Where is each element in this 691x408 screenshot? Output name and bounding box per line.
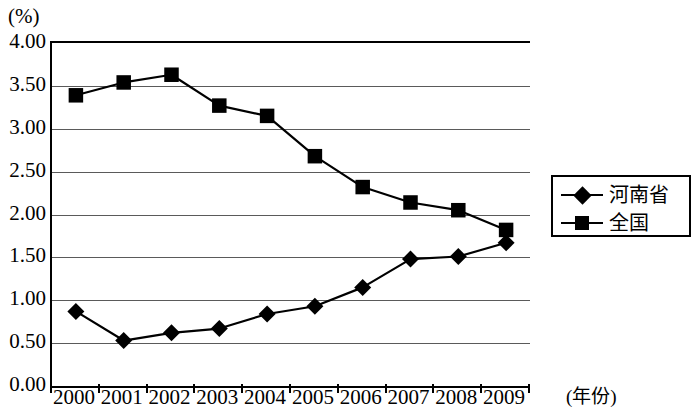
- diamond-data-point-marker: [259, 305, 276, 322]
- x-axis-tick-label: 2008: [435, 386, 477, 408]
- x-axis-tick-label: 2002: [149, 386, 191, 408]
- square-data-point-marker: [355, 180, 370, 195]
- y-axis-tick-label: 1.00: [0, 288, 46, 309]
- square-data-point-marker: [308, 149, 323, 164]
- y-axis-tick-label: 0.50: [0, 331, 46, 352]
- x-axis-tick-label: 2004: [244, 386, 286, 408]
- diamond-data-point-marker: [354, 279, 371, 296]
- legend-item-henan[interactable]: 河南省: [553, 181, 689, 209]
- diamond-data-point-marker: [163, 324, 180, 341]
- square-data-point-marker: [260, 109, 275, 124]
- x-axis-tick-label: 2005: [292, 386, 334, 408]
- series-layer: [52, 43, 530, 386]
- x-axis-tick-label: 2006: [340, 386, 382, 408]
- legend-item-national[interactable]: 全国: [553, 209, 689, 237]
- y-axis-tick-label: 1.50: [0, 245, 46, 266]
- diamond-data-point-marker: [67, 303, 84, 320]
- series-line: [76, 75, 506, 230]
- x-axis-title: (年份): [566, 386, 617, 408]
- legend-label-national: 全国: [603, 212, 649, 234]
- x-axis-tick: [528, 384, 530, 393]
- x-axis-tick-label: 2007: [388, 386, 430, 408]
- x-axis-tick-label: 2000: [53, 386, 95, 408]
- y-axis-tick-labels: 4.003.503.002.502.001.501.000.500.00: [0, 0, 46, 408]
- legend-key-diamond: [561, 185, 603, 205]
- series-line: [76, 243, 506, 341]
- diamond-marker-icon: [573, 186, 591, 204]
- legend-key-square: [561, 213, 603, 233]
- square-data-point-marker: [499, 223, 513, 238]
- square-marker-icon: [575, 216, 589, 230]
- square-data-point-marker: [164, 67, 179, 82]
- square-data-point-marker: [116, 75, 131, 90]
- y-axis-tick-label: 2.50: [0, 160, 46, 181]
- diamond-data-point-marker: [211, 320, 228, 337]
- y-axis-tick-label: 3.50: [0, 74, 46, 95]
- x-axis-tick-label: 2009: [483, 386, 525, 408]
- square-data-point-marker: [212, 98, 227, 113]
- y-axis-tick-label: 4.00: [0, 31, 46, 52]
- square-data-point-marker: [69, 88, 84, 103]
- x-axis-tick-label: 2001: [101, 386, 143, 408]
- diamond-data-point-marker: [115, 332, 132, 349]
- square-data-point-marker: [403, 195, 418, 210]
- x-axis-tick-labels: 2000200120022003200420052006200720082009: [50, 386, 528, 408]
- diamond-data-point-marker: [306, 298, 323, 315]
- diamond-data-point-marker: [450, 248, 467, 265]
- diamond-data-point-marker: [402, 251, 419, 268]
- y-axis-tick-label: 3.00: [0, 117, 46, 138]
- y-axis-tick-label: 0.00: [0, 374, 46, 395]
- square-data-point-marker: [451, 203, 466, 218]
- x-axis-tick-label: 2003: [196, 386, 238, 408]
- legend-label-henan: 河南省: [603, 184, 669, 206]
- chart-legend: 河南省 全国: [551, 175, 691, 237]
- plot-area: [50, 41, 530, 388]
- y-axis-tick-label: 2.00: [0, 203, 46, 224]
